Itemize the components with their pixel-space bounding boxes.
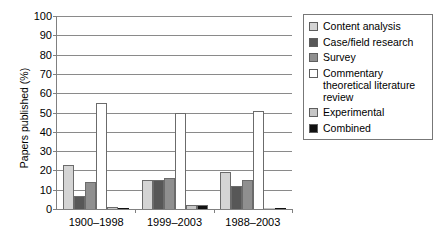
bar [153, 180, 164, 209]
legend-item-label: Experimental [323, 106, 384, 118]
bar [164, 178, 175, 209]
y-tick-label: 0 [46, 203, 52, 215]
legend-item[interactable]: Case/field research [309, 36, 428, 48]
y-tick-label: 40 [40, 126, 52, 138]
y-tick-mark [53, 209, 57, 210]
y-tick-label: 30 [40, 145, 52, 157]
plot-area: 0102030405060708090100 1900–19981999–200… [56, 16, 292, 210]
legend-item-label: Content analysis [323, 20, 401, 32]
bar [85, 182, 96, 209]
legend-item-label: Combined [323, 122, 371, 134]
bar [175, 113, 186, 210]
x-tick-mark [292, 209, 293, 213]
x-tick-mark [135, 209, 136, 213]
y-tick-label: 50 [40, 107, 52, 119]
bar [107, 207, 118, 209]
y-tick-label: 70 [40, 68, 52, 80]
bar-chart-figure: Papers published (%) 0102030405060708090… [0, 0, 439, 243]
y-tick-label: 60 [40, 87, 52, 99]
bar [74, 196, 85, 210]
legend-item[interactable]: Content analysis [309, 20, 428, 32]
x-axis-group-label: 1999–2003 [147, 216, 202, 228]
bar-group [220, 16, 286, 209]
y-axis-title: Papers published (%) [18, 38, 30, 198]
legend-swatch-icon [309, 124, 318, 133]
bar-group [63, 16, 129, 209]
legend-item[interactable]: Commentary theoretical literature review [309, 67, 428, 103]
x-axis-group-label: 1988–2003 [225, 216, 280, 228]
legend-item[interactable]: Experimental [309, 106, 428, 118]
y-tick-label: 20 [40, 164, 52, 176]
bar [197, 205, 208, 209]
y-tick-label: 80 [40, 49, 52, 61]
bar [253, 111, 264, 209]
y-tick-label: 90 [40, 29, 52, 41]
bar [231, 186, 242, 209]
y-tick-label: 100 [34, 10, 52, 22]
bar-group [142, 16, 208, 209]
legend-swatch-icon [309, 53, 318, 62]
legend-item-label: Survey [323, 51, 356, 63]
legend-swatch-icon [309, 69, 318, 78]
legend-swatch-icon [309, 38, 318, 47]
y-tick-label: 10 [40, 184, 52, 196]
legend-swatch-icon [309, 108, 318, 117]
x-tick-mark [214, 209, 215, 213]
bar [96, 103, 107, 209]
bar [118, 208, 129, 209]
legend-item[interactable]: Survey [309, 51, 428, 63]
bar [142, 180, 153, 209]
bar [220, 172, 231, 209]
bar [275, 208, 286, 209]
bar [63, 165, 74, 209]
legend-swatch-icon [309, 22, 318, 31]
chart-legend: Content analysisCase/field researchSurve… [303, 14, 433, 140]
legend-item[interactable]: Combined [309, 122, 428, 134]
bar [264, 208, 275, 209]
x-axis-group-label: 1900–1998 [69, 216, 124, 228]
legend-item-label: Case/field research [323, 36, 413, 48]
bars-layer: 1900–19981999–20031988–2003 [57, 16, 292, 209]
bar [242, 180, 253, 209]
legend-item-label: Commentary theoretical literature review [323, 67, 428, 103]
bar [186, 205, 197, 209]
